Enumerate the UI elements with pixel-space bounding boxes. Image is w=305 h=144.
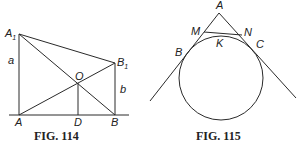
label-side-a: a <box>8 54 14 66</box>
label-n: N <box>244 26 252 38</box>
label-apex-a: A <box>215 0 223 11</box>
segment-a1b <box>19 34 115 115</box>
diagram-canvas: A1 a O B1 b A D B FIG. 114 A M N K B C F… <box>0 0 305 144</box>
label-a: A <box>14 116 22 128</box>
label-c: C <box>256 38 264 50</box>
segment-ab1 <box>19 63 115 115</box>
label-side-b: b <box>120 83 126 95</box>
figure-114: A1 a O B1 b A D B FIG. 114 <box>4 27 129 143</box>
label-d: D <box>74 116 82 128</box>
label-m: M <box>191 25 201 37</box>
label-k: K <box>216 37 224 49</box>
caption-fig-114: FIG. 114 <box>34 129 79 143</box>
label-b: B <box>175 46 182 58</box>
caption-fig-115: FIG. 115 <box>196 129 241 143</box>
tangent-ac <box>219 13 296 98</box>
label-b1: B1 <box>117 56 128 70</box>
figure-115: A M N K B C FIG. 115 <box>150 0 296 143</box>
label-b: B <box>111 116 118 128</box>
label-a1: A1 <box>4 27 16 41</box>
segment-a1b1 <box>19 34 115 63</box>
label-o: O <box>75 70 84 82</box>
